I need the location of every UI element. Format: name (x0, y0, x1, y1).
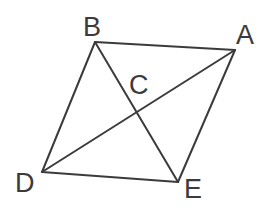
segment-diagonal-DA (42, 50, 235, 172)
geometry-figure: B A C D E (0, 0, 278, 214)
segment-side-BA (95, 42, 235, 50)
segment-side-AE (178, 50, 235, 182)
vertex-label-b: B (83, 14, 101, 41)
vertex-label-e: E (184, 176, 202, 203)
segment-side-DB (42, 42, 95, 172)
vertex-label-c: C (129, 72, 149, 99)
vertex-label-a: A (236, 22, 254, 49)
segment-side-ED (42, 172, 178, 182)
vertex-label-d: D (15, 170, 35, 197)
